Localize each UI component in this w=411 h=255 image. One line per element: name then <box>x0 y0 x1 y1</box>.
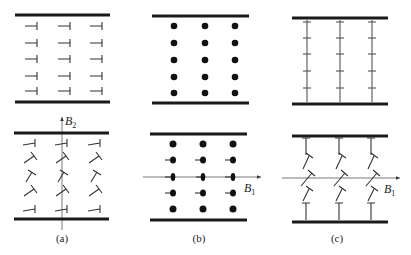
panel-a: B2 (a) <box>14 15 110 245</box>
panel-c-top <box>292 18 388 104</box>
panel-b-bottom: B1 <box>143 134 261 220</box>
panel-c-bottom: B1 <box>282 136 400 222</box>
b2-axis-label: B2 <box>65 114 76 130</box>
tailed-dot-grid <box>165 141 237 213</box>
panel-b-caption: (b) <box>193 232 206 245</box>
panel-c-caption: (c) <box>331 232 344 245</box>
b1-axis-label: B1 <box>384 182 395 198</box>
panel-a-top <box>15 15 110 102</box>
figure-canvas: B2 (a) <box>0 0 411 255</box>
tilted-t-symbol-grid <box>301 138 380 220</box>
b1-axis-label: B1 <box>244 181 255 197</box>
panel-a-caption: (a) <box>56 232 69 245</box>
panel-b: B1 (b) <box>143 16 261 245</box>
tilted-dislocation-grid <box>23 139 102 213</box>
dot-grid <box>171 23 239 97</box>
panel-b-top <box>152 16 249 103</box>
dislocation-grid <box>25 22 102 95</box>
panel-a-bottom: B2 <box>14 114 109 230</box>
panel-c: B1 (c) <box>282 18 400 245</box>
t-symbol-columns <box>303 20 376 102</box>
